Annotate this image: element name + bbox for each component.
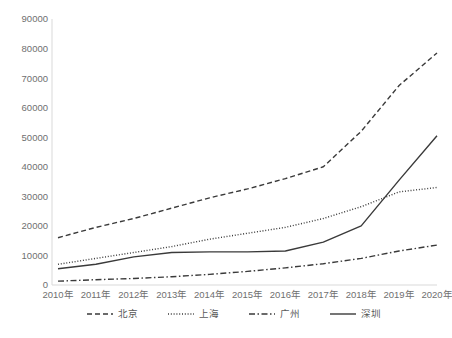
y-tick-label: 20000: [22, 220, 48, 231]
axis-lines: [52, 19, 437, 285]
x-tick-label: 2013年: [156, 289, 187, 300]
x-tick-label: 2020年: [421, 289, 452, 300]
x-tick-label: 2019年: [384, 289, 415, 300]
series-line: [58, 245, 437, 281]
y-tick-label: 60000: [22, 102, 48, 113]
y-tick-label: 80000: [22, 43, 48, 54]
y-tick-label: 30000: [22, 191, 48, 202]
series-line: [58, 136, 437, 269]
x-tick-label: 2015年: [232, 289, 263, 300]
legend-item-label[interactable]: 深圳: [361, 308, 381, 319]
y-tick-label: 90000: [22, 13, 48, 24]
y-tick-label: 40000: [22, 161, 48, 172]
x-tick-label: 2018年: [346, 289, 377, 300]
y-axis-ticks: 9000080000700006000050000400003000020000…: [22, 13, 48, 290]
series-line: [58, 187, 437, 264]
chart-canvas: 9000080000700006000050000400003000020000…: [0, 0, 452, 338]
x-tick-label: 2010年: [42, 289, 73, 300]
x-tick-label: 2012年: [118, 289, 149, 300]
legend-item-label[interactable]: 广州: [280, 308, 300, 319]
chart-legend: 北京上海广州深圳: [87, 308, 381, 319]
x-tick-label: 2011年: [81, 289, 111, 300]
x-tick-label: 2014年: [194, 289, 225, 300]
x-tick-label: 2016年: [270, 289, 301, 300]
x-tick-label: 2017年: [308, 289, 339, 300]
y-tick-label: 10000: [22, 250, 48, 261]
legend-item-label[interactable]: 北京: [118, 308, 138, 319]
x-axis-ticks: 2010年2011年2012年2013年2014年2015年2016年2017年…: [42, 289, 452, 300]
line-chart: 9000080000700006000050000400003000020000…: [0, 0, 452, 338]
series-line: [58, 53, 437, 238]
plot-series: [58, 53, 437, 281]
legend-item-label[interactable]: 上海: [199, 308, 219, 319]
y-tick-label: 70000: [22, 73, 48, 84]
y-tick-label: 50000: [22, 132, 48, 143]
